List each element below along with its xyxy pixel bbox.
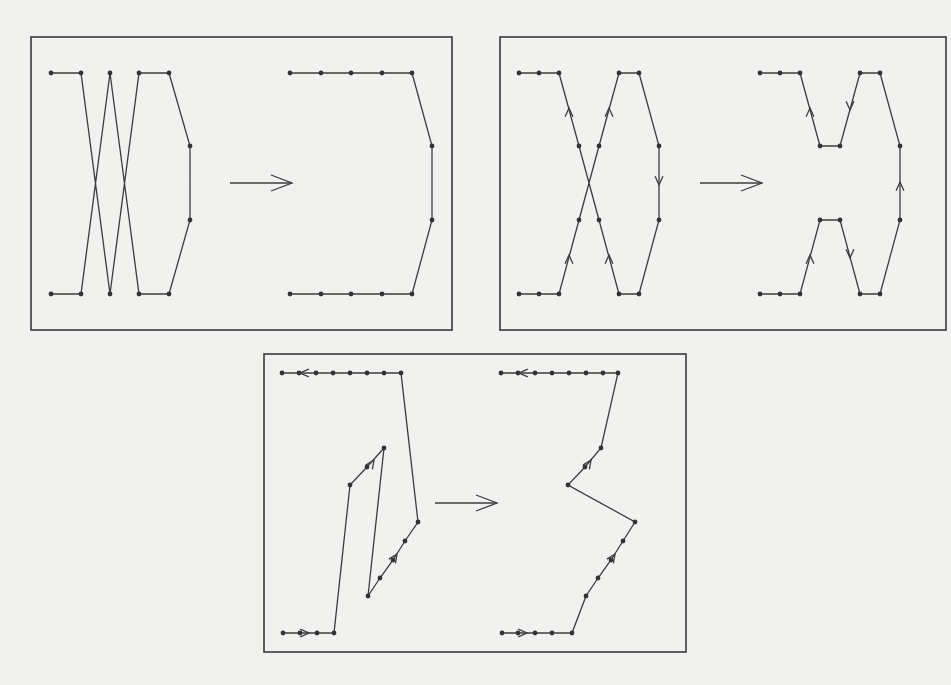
configuration-after	[288, 71, 435, 297]
vertex-node	[281, 631, 286, 636]
vertex-node	[584, 371, 589, 376]
vertex-node	[314, 371, 319, 376]
vertex-node	[557, 71, 562, 76]
vertex-node	[348, 483, 353, 488]
vertex-node	[517, 71, 522, 76]
vertex-node	[410, 71, 415, 76]
vertex-node	[500, 631, 505, 636]
vertex-node	[108, 71, 113, 76]
vertex-node	[858, 71, 863, 76]
vertex-node	[188, 144, 193, 149]
vertex-node	[778, 71, 783, 76]
configuration-before	[49, 71, 193, 297]
vertex-node	[517, 292, 522, 297]
vertex-node	[188, 218, 193, 223]
vertex-node	[616, 371, 621, 376]
vertex-node	[858, 292, 863, 297]
configuration-before	[280, 369, 421, 637]
vertex-node	[878, 292, 883, 297]
direction-arrow-icon	[846, 101, 854, 110]
vertex-node	[597, 218, 602, 223]
vertex-node	[380, 292, 385, 297]
vertex-node	[380, 71, 385, 76]
vertex-node	[617, 71, 622, 76]
vertex-node	[567, 371, 572, 376]
vertex-node	[533, 631, 538, 636]
vertex-node	[49, 292, 54, 297]
vertex-node	[79, 71, 84, 76]
tour-path	[760, 73, 900, 294]
vertex-node	[566, 483, 571, 488]
vertex-node	[550, 631, 555, 636]
vertex-node	[758, 71, 763, 76]
panels-group	[31, 37, 946, 652]
tour-path	[501, 373, 635, 633]
vertex-node	[365, 465, 370, 470]
vertex-node	[137, 71, 142, 76]
direction-arrow-icon	[846, 249, 854, 258]
transition-arrow-icon	[230, 175, 292, 191]
configuration-before	[517, 71, 663, 297]
tour-path	[519, 73, 659, 294]
vertex-node	[516, 631, 521, 636]
tour-path	[290, 73, 432, 294]
panel-top-right	[500, 37, 946, 330]
vertex-node	[838, 218, 843, 223]
vertex-node	[798, 292, 803, 297]
vertex-node	[366, 594, 371, 599]
vertex-node	[537, 292, 542, 297]
vertex-node	[167, 71, 172, 76]
vertex-node	[657, 144, 662, 149]
vertex-node	[365, 371, 370, 376]
vertex-node	[898, 218, 903, 223]
vertex-node	[331, 371, 336, 376]
vertex-node	[596, 576, 601, 581]
vertex-node	[778, 292, 783, 297]
vertex-node	[617, 292, 622, 297]
vertex-node	[349, 71, 354, 76]
vertex-node	[637, 71, 642, 76]
vertex-node	[49, 71, 54, 76]
panel-top-left	[31, 37, 452, 330]
vertex-node	[349, 292, 354, 297]
vertex-node	[382, 446, 387, 451]
vertex-node	[416, 520, 421, 525]
vertex-node	[557, 292, 562, 297]
vertex-node	[348, 371, 353, 376]
vertex-node	[758, 292, 763, 297]
vertex-node	[657, 218, 662, 223]
vertex-node	[898, 144, 903, 149]
vertex-node	[818, 144, 823, 149]
vertex-node	[621, 539, 626, 544]
vertex-node	[599, 446, 604, 451]
direction-arrow-icon	[565, 108, 573, 117]
direction-arrow-icon	[605, 108, 613, 117]
vertex-node	[550, 371, 555, 376]
direction-arrow-icon	[806, 108, 814, 117]
vertex-node	[537, 71, 542, 76]
vertex-node	[878, 71, 883, 76]
vertex-node	[499, 371, 504, 376]
vertex-node	[818, 218, 823, 223]
diagram-svg	[0, 0, 951, 685]
tour-path	[51, 73, 190, 294]
vertex-node	[838, 144, 843, 149]
vertex-node	[798, 71, 803, 76]
vertex-node	[319, 292, 324, 297]
vertex-node	[288, 71, 293, 76]
panel-bottom	[264, 354, 686, 652]
vertex-node	[584, 594, 589, 599]
vertex-node	[403, 539, 408, 544]
vertex-node	[108, 292, 113, 297]
vertex-node	[319, 71, 324, 76]
configuration-after	[758, 71, 904, 297]
vertex-node	[288, 292, 293, 297]
vertex-node	[633, 520, 638, 525]
vertex-node	[410, 292, 415, 297]
vertex-node	[382, 371, 387, 376]
vertex-node	[570, 631, 575, 636]
figure-canvas	[0, 0, 951, 685]
vertex-node	[577, 218, 582, 223]
vertex-node	[332, 631, 337, 636]
transition-arrow-icon	[435, 495, 497, 511]
